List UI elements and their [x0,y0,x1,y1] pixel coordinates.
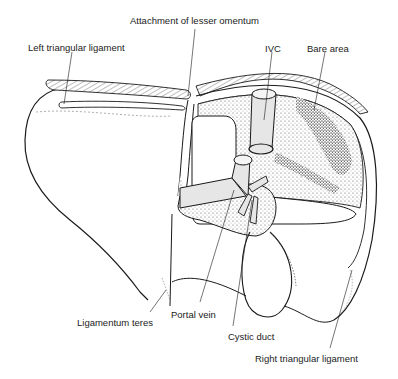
gallbladder [242,232,292,317]
label-ivc: IVC [265,44,281,54]
ligamentum-teres [162,278,170,300]
label-left-triangular-ligament: Left triangular ligament [28,43,125,53]
left-lobe-outline [25,88,148,300]
inferior-border [172,278,246,296]
left-triangular-ligament [46,80,190,99]
label-attachment-of-lesser-omentum: Attachment of lesser omentum [130,16,259,26]
liver-illustration [0,0,398,379]
label-right-triangular-ligament: Right triangular ligament [255,354,358,364]
liver-diagram: Left triangular ligament Attachment of l… [0,0,398,379]
ivc-vessel [249,89,276,154]
label-bare-area: Bare area [307,44,349,54]
label-cystic-duct: Cystic duct [228,332,274,342]
label-ligamentum-teres: Ligamentum teres [77,318,153,328]
label-portal-vein: Portal vein [171,310,216,320]
